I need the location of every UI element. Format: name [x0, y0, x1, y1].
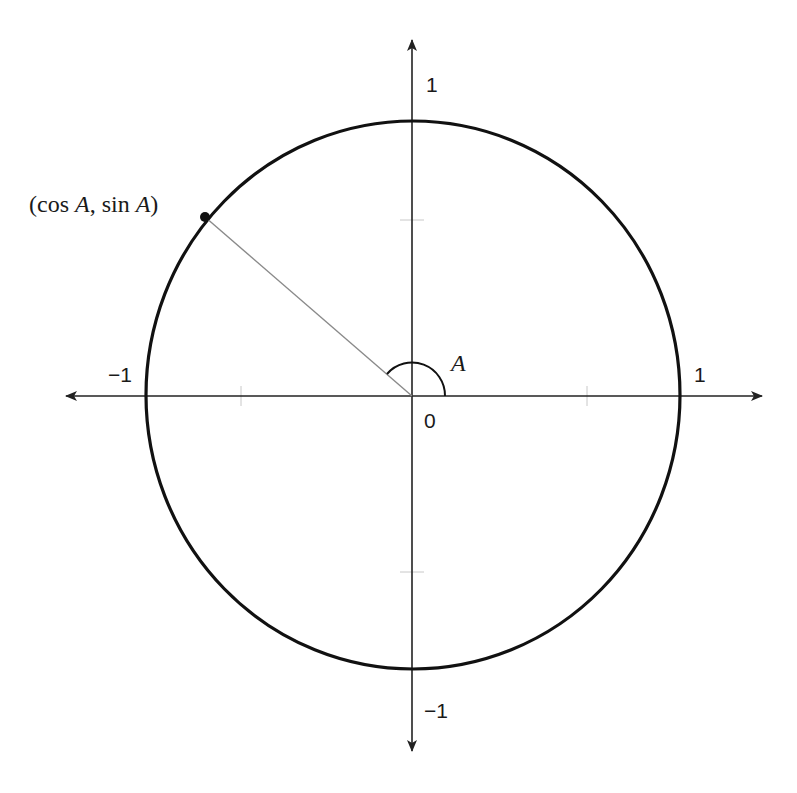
unit-circle-diagram: (cos A, sin A) A 0 1 −1 1 −1: [0, 0, 797, 793]
point-label-var2: A: [136, 191, 151, 217]
unit-circle: [146, 121, 680, 669]
y-positive-label: 1: [426, 74, 438, 95]
angle-arc: [387, 363, 445, 396]
y-negative-label: −1: [424, 700, 448, 721]
x-negative-label: −1: [108, 364, 132, 385]
origin-label: 0: [424, 410, 436, 431]
point-label-mid: , sin: [90, 191, 136, 217]
point-coordinate-label: (cos A, sin A): [29, 192, 158, 216]
point-on-circle: [200, 212, 210, 222]
radius-line: [205, 217, 412, 396]
point-label-open: (cos: [29, 191, 75, 217]
x-positive-label: 1: [694, 364, 706, 385]
angle-label: A: [451, 351, 466, 375]
point-label-var1: A: [75, 191, 90, 217]
point-label-close: ): [150, 191, 158, 217]
diagram-canvas: [0, 0, 797, 793]
